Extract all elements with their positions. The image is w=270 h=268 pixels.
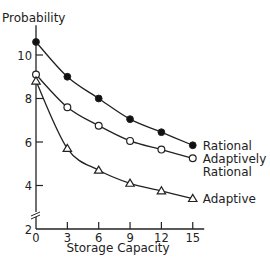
x-tick-label: 0 [32, 231, 39, 245]
series-label: Rational [203, 139, 252, 153]
data-point-open-triangle [95, 166, 103, 173]
y-tick-label: 2 [25, 223, 32, 237]
x-tick-label: 15 [185, 231, 200, 245]
x-axis-label: Storage Capacity [66, 241, 169, 255]
y-tick-label: 6 [25, 136, 32, 150]
data-point-filled-circle [33, 39, 40, 46]
data-point-filled-circle [127, 116, 134, 123]
y-axis-label: Probability [2, 11, 65, 25]
data-point-filled-circle [189, 142, 196, 149]
data-point-open-circle [127, 138, 134, 145]
data-point-filled-circle [95, 95, 102, 102]
data-point-open-triangle [63, 144, 71, 151]
chart: 24681003691215 RationalAdaptivelyRationa… [0, 0, 270, 268]
series-line-adaptive [36, 81, 193, 198]
series-line-rational [36, 42, 193, 145]
y-tick-label: 10 [17, 49, 32, 63]
series-label: Adaptive [203, 192, 256, 206]
data-point-open-circle [95, 122, 102, 129]
series-line-adaptively-rational [36, 75, 193, 159]
data-point-open-circle [64, 104, 71, 111]
data-point-open-circle [158, 146, 165, 153]
y-tick-label: 4 [25, 179, 32, 193]
series-label: Rational [203, 165, 252, 179]
data-point-filled-circle [158, 129, 165, 136]
data-point-filled-circle [64, 73, 71, 80]
y-tick-label: 8 [25, 92, 32, 106]
data-point-open-circle [189, 155, 196, 162]
series-label: Adaptively [203, 152, 267, 166]
